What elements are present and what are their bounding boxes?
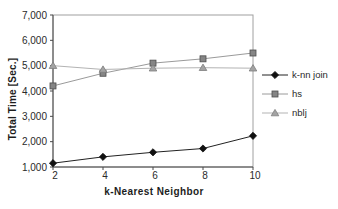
- legend: k-nn joinhsnblj: [262, 69, 328, 118]
- x-tick-label: 10: [249, 170, 261, 181]
- legend-key-icon: [262, 70, 288, 80]
- legend-key-icon: [262, 108, 288, 118]
- legend-entry-k-nn-join: k-nn join: [262, 69, 328, 80]
- diamond-marker: [49, 160, 56, 167]
- plot-border: [53, 15, 253, 167]
- square-marker: [50, 83, 56, 89]
- legend-entry-nblj: nblj: [262, 107, 328, 118]
- legend-key-icon: [262, 89, 288, 99]
- diamond-marker: [271, 71, 278, 78]
- diamond-marker: [99, 153, 106, 160]
- y-tick-label: 3,000: [22, 111, 47, 122]
- legend-label: k-nn join: [292, 69, 328, 80]
- diamond-marker: [199, 145, 206, 152]
- y-tick-label: 2,000: [22, 136, 47, 147]
- x-axis-title: k-Nearest Neighbor: [104, 186, 203, 197]
- x-tick-label: 4: [102, 170, 108, 181]
- legend-entry-hs: hs: [262, 88, 328, 99]
- y-tick-label: 1,000: [22, 162, 47, 173]
- y-tick-label: 4,000: [22, 86, 47, 97]
- y-tick-label: 7,000: [22, 10, 47, 21]
- x-tick-label: 6: [152, 170, 158, 181]
- y-axis-title: Total Time [Sec.]: [7, 58, 18, 141]
- square-marker: [200, 56, 206, 62]
- square-marker: [250, 50, 256, 56]
- legend-label: nblj: [292, 107, 307, 118]
- legend-label: hs: [292, 88, 302, 99]
- x-tick-label: 8: [202, 170, 208, 181]
- diamond-marker: [149, 149, 156, 156]
- x-tick-label: 2: [52, 170, 58, 181]
- y-tick-label: 5,000: [22, 60, 47, 71]
- square-marker: [272, 91, 278, 97]
- y-tick-label: 6,000: [22, 35, 47, 46]
- knn-performance-chart: 1,0002,0003,0004,0005,0006,0007,00024681…: [0, 0, 338, 209]
- diamond-marker: [249, 132, 256, 139]
